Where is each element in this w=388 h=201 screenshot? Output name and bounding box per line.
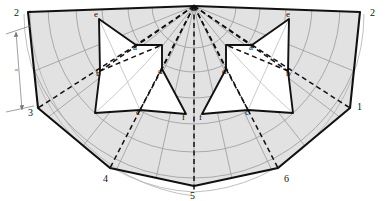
- point-label-a-right: a: [249, 42, 253, 52]
- construction-drawing: x 2 2 3 1 4 5 6 a b c d e f a b c d e f: [0, 0, 388, 201]
- point-label-e-left: e: [94, 9, 98, 19]
- point-label-b-left: b: [96, 68, 101, 78]
- point-label-c-left: c: [136, 107, 140, 117]
- point-label-e-right: e: [286, 9, 290, 19]
- point-label-6: 6: [284, 173, 289, 184]
- point-label-a-left: a: [133, 42, 137, 52]
- point-label-1: 1: [357, 101, 362, 112]
- diagram-canvas: x 2 2 3 1 4 5 6 a b c d e f a b c d e f: [0, 0, 388, 201]
- point-label-2-right: 2: [370, 7, 375, 18]
- point-label-c-right: c: [245, 107, 249, 117]
- point-label-3: 3: [28, 107, 33, 118]
- point-label-5: 5: [190, 190, 195, 201]
- vertex-dots: [192, 4, 195, 7]
- point-label-f-right: f: [199, 112, 202, 122]
- point-label-4: 4: [103, 173, 108, 184]
- point-label-d-left: d: [158, 66, 163, 76]
- point-label-d-right: d: [222, 66, 227, 76]
- dimension-label-x: x: [13, 69, 19, 72]
- point-label-2-left: 2: [14, 7, 19, 18]
- point-label-f-left: f: [182, 112, 185, 122]
- point-label-b-right: b: [286, 68, 291, 78]
